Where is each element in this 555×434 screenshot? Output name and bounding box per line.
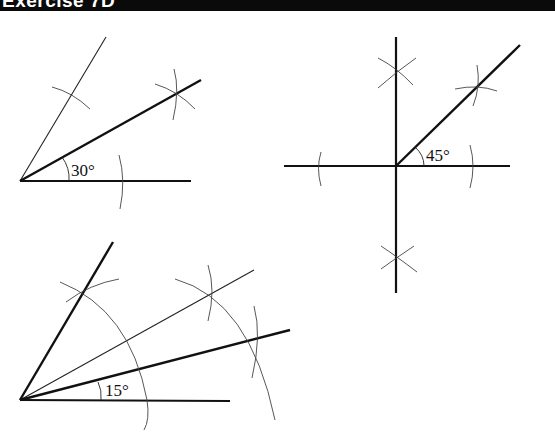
sixty-degree-ray: [20, 242, 113, 400]
construction-arc: [60, 282, 148, 430]
angle-label: 45°: [426, 146, 450, 165]
angle-arc: [415, 147, 424, 166]
bisector-ray: [20, 80, 201, 181]
thirty-degree-ray: [20, 270, 254, 400]
bisector-ray: [396, 45, 520, 166]
fifteen-degree-ray: [20, 330, 290, 400]
figure-15-degrees: 15°: [20, 242, 290, 430]
angle-arc: [98, 382, 101, 400]
construction-diagrams: 30° 45° 15°: [0, 0, 555, 434]
base-ray: [20, 400, 230, 401]
construction-arc: [52, 87, 90, 109]
angle-label: 30°: [71, 161, 95, 180]
angle-arc: [62, 157, 69, 181]
figure-30-degrees: 30°: [20, 37, 201, 209]
sixty-degree-ray: [20, 37, 106, 181]
figure-45-degrees: 45°: [284, 37, 520, 293]
angle-label: 15°: [105, 381, 129, 400]
construction-arc: [175, 279, 275, 420]
